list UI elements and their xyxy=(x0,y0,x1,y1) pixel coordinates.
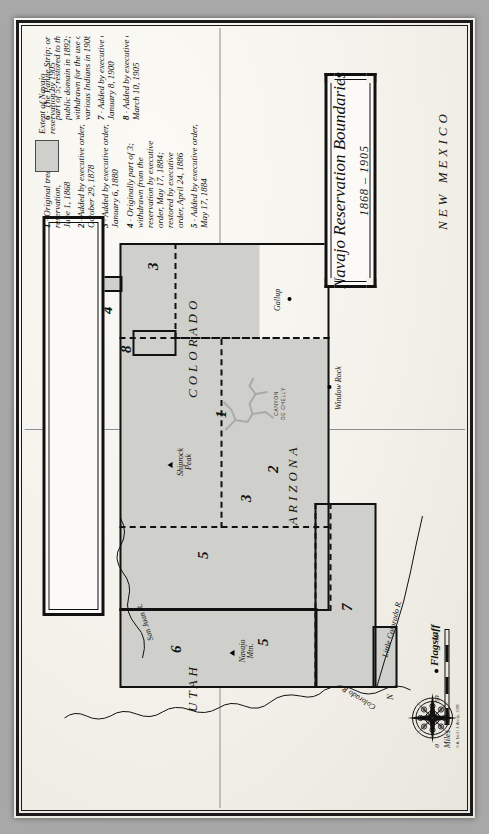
legend-entry-sep: · xyxy=(121,109,131,113)
legend-entry-text-l2: March 10, 1905 xyxy=(131,63,141,120)
legend-swatch-caption: Extent of Navajo reservation by 1905 xyxy=(37,62,58,134)
legend-entry-8: 8 · Added by executive order, March 10, … xyxy=(121,36,141,120)
scale-bar: 0 50 50 Miles xyxy=(432,628,451,748)
map-credit-line: © A. Neil / J. Alsup, 1985 xyxy=(454,704,459,748)
legend-entry-text-l2: June 1, 1868 xyxy=(62,182,72,228)
title-cartouche: Navajo Reservation Boundaries 1868 – 190… xyxy=(324,73,376,288)
legend-entry-sep: · xyxy=(42,217,52,222)
legend-entry-text-l1: Added by executive order, xyxy=(96,36,106,109)
legend-cartouche-inner xyxy=(48,222,98,610)
legend-entry-text-l1: Originally part of 3; xyxy=(125,143,135,217)
legend-entry-text-l1: Added by executive order, xyxy=(100,124,110,217)
legend-entry-2: 2 · Added by executive order, October 29… xyxy=(76,120,96,228)
scale-tick-2: 50 xyxy=(432,635,440,642)
legend-entry-number: 5 xyxy=(189,224,199,229)
map-screenshot: UTAH COLORADO ARIZONA NEW MEXICO 1 2 3 3… xyxy=(0,0,489,834)
map-title: Navajo Reservation Boundaries xyxy=(329,72,349,289)
scale-tick-0: 0 xyxy=(432,744,440,748)
legend-entry-sep: · xyxy=(76,217,86,221)
scale-tick-labels: 0 50 50 xyxy=(432,628,442,748)
legend-entry-number: 3 xyxy=(100,224,110,229)
legend-entry-text-l6: order, April 24, 1886 xyxy=(175,153,185,228)
cartouche-notch-tr xyxy=(324,73,334,83)
legend-entry-number: 4 xyxy=(125,224,135,229)
legend-entry-7: 7 · Added by executive order, January 8,… xyxy=(96,36,116,120)
legend-entry-4: 4 · Originally part of 3; withdrawn from… xyxy=(125,120,185,228)
legend-entry-text-l1: Added by executive order, xyxy=(76,124,86,217)
map-title-date-range: 1868 – 1905 xyxy=(356,145,371,216)
legend-entry-number: 7 xyxy=(96,116,106,121)
legend-entry-3: 3 · Added by executive order, January 6,… xyxy=(100,120,120,228)
legend-swatch-rotated: Extent of Navajo reservation by 1905 xyxy=(28,42,66,172)
legend-cartouche xyxy=(42,216,104,616)
legend-entry-text-l3: reservation by executive xyxy=(145,141,155,228)
scale-tick-1: 50 xyxy=(432,696,440,703)
legend-entry-text-l1: Added by executive order, xyxy=(121,36,131,109)
cartouche-notch-bl xyxy=(366,278,376,288)
legend-entry-sep: · xyxy=(125,217,135,222)
legend-entry-number: 8 xyxy=(121,116,131,121)
legend-swatch-group: Extent of Navajo reservation by 1905 xyxy=(28,42,66,172)
legend-entry-text-l2: January 8, 1900 xyxy=(106,61,116,120)
legend-entry-sep: · xyxy=(96,109,106,113)
scale-unit-label: Miles xyxy=(442,730,451,748)
legend-swatch-caption-l1: Extent of Navajo xyxy=(37,74,47,135)
legend-color-swatch xyxy=(35,140,59,172)
legend-entry-5: 5 · Added by executive order, May 17, 18… xyxy=(189,120,209,228)
legend-entry-sep: · xyxy=(189,217,199,221)
legend-entry-text-l2: May 17, 1884 xyxy=(199,178,209,228)
legend-entry-text-l5: restored by executive xyxy=(165,152,175,228)
scale-bar-graphic xyxy=(444,629,449,725)
legend-entry-sep: · xyxy=(100,217,110,221)
cartouche-notch-br xyxy=(366,73,376,83)
legend-entry-text-l4: withdrawn for the use of xyxy=(72,36,82,120)
legend-swatch-caption-l2: reservation by 1905 xyxy=(47,62,57,134)
legend-entry-text-l2: October 29, 1878 xyxy=(86,165,96,228)
legend-entry-text-l2: withdrawn from the xyxy=(135,157,145,228)
title-cartouche-inner: Navajo Reservation Boundaries 1868 – 190… xyxy=(330,79,370,282)
legend-entries-rotated: 1 · Original treaty reservation, June 1,… xyxy=(42,36,226,228)
legend-entry-text-l4: order, May 17, 1884; xyxy=(155,152,165,228)
legend-entry-number: 1 xyxy=(42,224,52,229)
legend-entry-text-l5: various Indians in 1908 xyxy=(82,36,92,120)
cartouche-notch-tl xyxy=(324,278,334,288)
legend-entry-number: 2 xyxy=(76,224,86,229)
legend-entry-text-l1: Added by executive order, xyxy=(189,124,199,217)
north-label: N xyxy=(384,694,394,700)
legend-entry-text-l2: January 6, 1880 xyxy=(110,169,120,228)
